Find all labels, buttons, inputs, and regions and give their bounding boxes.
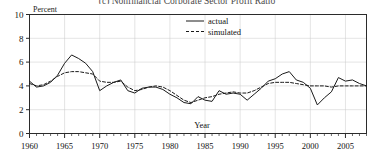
- axis-frame: [30, 15, 367, 134]
- x-axis-title: Year: [194, 120, 210, 130]
- data-series-layer: [30, 55, 367, 105]
- gridlines: [30, 15, 367, 134]
- y-tick-label: 8: [19, 34, 24, 44]
- y-axis-ticks: 0246810: [15, 10, 30, 139]
- x-tick-label: 2005: [337, 141, 354, 151]
- x-tick-label: 1970: [91, 141, 108, 151]
- y-tick-label: 10: [15, 10, 25, 20]
- line-chart-svg: 0246810 19601965197019751980198519901995…: [0, 0, 374, 162]
- x-tick-label: 1975: [126, 141, 143, 151]
- series-line-actual: [30, 55, 367, 105]
- x-axis-title-label: Year: [194, 120, 210, 130]
- y-tick-label: 2: [19, 105, 24, 115]
- x-axis-ticks: 1960196519701975198019851990199520002005: [21, 134, 367, 151]
- x-tick-label: 1990: [232, 141, 249, 151]
- x-tick-label: 1980: [161, 141, 178, 151]
- chart-figure: (c) Nonfinancial Corporate Sector Profit…: [0, 0, 374, 162]
- x-tick-label: 2000: [302, 141, 319, 151]
- y-tick-label: 4: [19, 81, 24, 91]
- series-line-simulated: [30, 72, 367, 103]
- x-tick-label: 1985: [197, 141, 214, 151]
- chart-legend: actualsimulated: [186, 16, 242, 37]
- legend-label-simulated: simulated: [208, 27, 242, 37]
- x-tick-label: 1995: [267, 141, 284, 151]
- plot-area: 0246810 19601965197019751980198519901995…: [0, 0, 374, 162]
- legend-label-actual: actual: [208, 16, 229, 26]
- x-tick-label: 1965: [56, 141, 73, 151]
- plot-frame: [30, 15, 367, 134]
- y-tick-label: 6: [19, 57, 24, 67]
- x-tick-label: 1960: [21, 141, 38, 151]
- y-tick-label: 0: [19, 129, 24, 139]
